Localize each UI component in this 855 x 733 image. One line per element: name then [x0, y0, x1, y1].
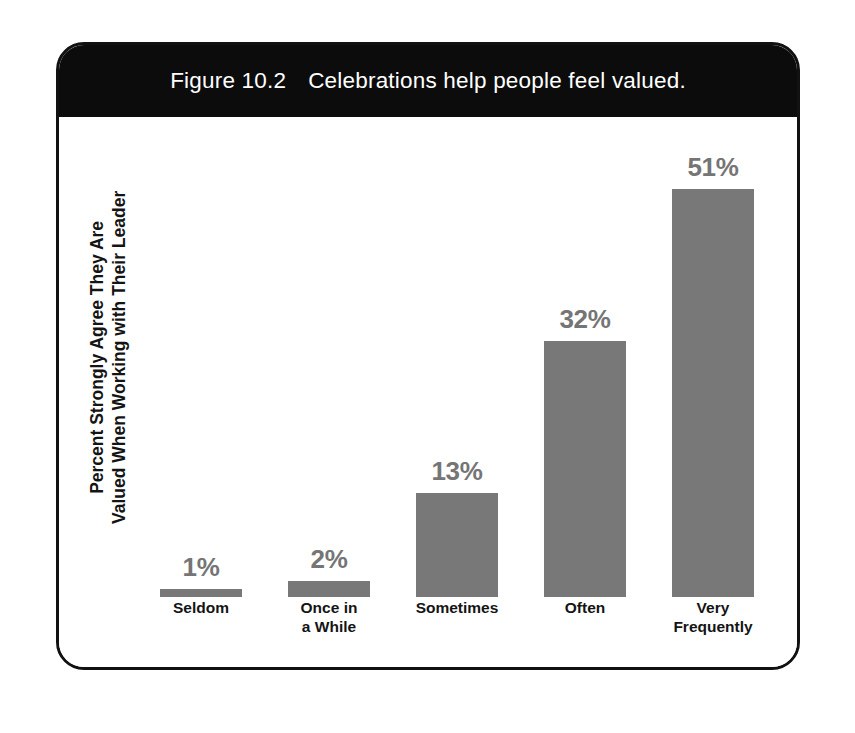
bar-chart-plot: 1%2%13%32%51%	[137, 117, 777, 597]
bar-group: 32%	[544, 117, 627, 597]
x-tick-label: Seldom	[137, 599, 265, 618]
bar	[160, 589, 243, 597]
bar-group: 2%	[288, 117, 371, 597]
bar-group: 1%	[160, 117, 243, 597]
bar	[544, 341, 627, 597]
bar-value-label: 32%	[544, 304, 627, 335]
figure-title: Figure 10.2Celebrations help people feel…	[170, 68, 686, 94]
bar-value-label: 51%	[672, 152, 755, 183]
y-axis-label: Percent Strongly Agree They Are Valued W…	[87, 190, 132, 523]
x-tick-label: Once ina While	[265, 599, 393, 637]
x-axis-label: The Leader Finds Creative Ways to Celebr…	[149, 665, 767, 670]
x-axis-label-line-1: The Leader Finds Creative Ways to Celebr…	[149, 665, 767, 670]
y-axis-label-wrapper: Percent Strongly Agree They Are Valued W…	[81, 117, 137, 597]
figure-title-band: Figure 10.2Celebrations help people feel…	[59, 45, 797, 117]
x-axis-tick-labels: SeldomOnce ina WhileSometimesOftenVeryFr…	[137, 599, 777, 657]
bar-value-label: 2%	[288, 544, 371, 575]
x-tick-label-line: Frequently	[649, 618, 777, 637]
bar	[288, 581, 371, 597]
bar-group: 13%	[416, 117, 499, 597]
figure-frame: Figure 10.2Celebrations help people feel…	[56, 42, 800, 670]
figure-caption: Celebrations help people feel valued.	[308, 68, 686, 93]
bar-value-label: 13%	[416, 456, 499, 487]
bar	[416, 493, 499, 597]
figure-number: Figure 10.2	[170, 68, 286, 93]
bar-value-label: 1%	[160, 552, 243, 583]
x-tick-label: Often	[521, 599, 649, 618]
x-tick-label-line: Once in	[265, 599, 393, 618]
x-tick-label-line: Often	[521, 599, 649, 618]
x-tick-label-line: Seldom	[137, 599, 265, 618]
plot-area: Percent Strongly Agree They Are Valued W…	[59, 117, 797, 670]
bar	[672, 189, 755, 597]
x-tick-label-line: a While	[265, 618, 393, 637]
x-tick-label: Sometimes	[393, 599, 521, 618]
y-axis-label-line-1: Percent Strongly Agree They Are	[87, 190, 109, 523]
x-tick-label-line: Sometimes	[393, 599, 521, 618]
y-axis-label-line-2: Valued When Working with Their Leader	[109, 190, 131, 523]
x-tick-label: VeryFrequently	[649, 599, 777, 637]
bar-group: 51%	[672, 117, 755, 597]
x-tick-label-line: Very	[649, 599, 777, 618]
